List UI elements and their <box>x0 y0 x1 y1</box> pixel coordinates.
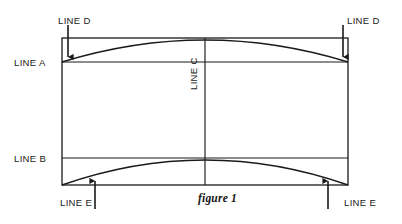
figure-diagram: LINE A LINE B LINE C LINE D LINE D LINE … <box>0 0 402 224</box>
line-b-label: LINE B <box>14 154 46 164</box>
line-c-label: LINE C <box>189 57 199 90</box>
line-d-right-label: LINE D <box>347 16 380 26</box>
line-e-right-label: LINE E <box>344 198 376 208</box>
line-d-left-label: LINE D <box>58 16 91 26</box>
diagram-canvas <box>0 0 402 224</box>
figure-caption: figure 1 <box>198 192 237 204</box>
line-a-label: LINE A <box>14 58 46 68</box>
line-e-left-label: LINE E <box>60 198 92 208</box>
